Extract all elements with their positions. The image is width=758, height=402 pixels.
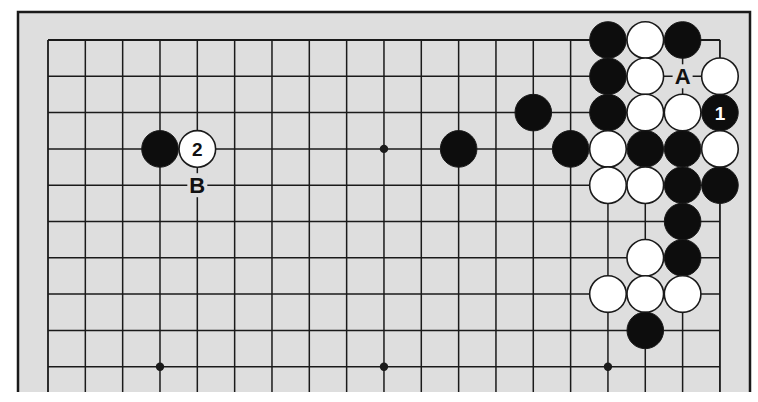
black-stone xyxy=(515,94,552,131)
black-stone xyxy=(627,131,664,168)
black-stone xyxy=(590,58,627,95)
white-stone xyxy=(627,239,664,276)
white-stone xyxy=(627,22,664,59)
black-stone xyxy=(664,22,701,59)
white-stone xyxy=(702,58,739,95)
black-stone xyxy=(664,239,701,276)
go-board: 12 AB xyxy=(0,0,758,402)
point-label-a: A xyxy=(675,64,691,89)
move-number-1: 1 xyxy=(715,103,726,124)
black-stone xyxy=(702,167,739,204)
black-stone xyxy=(142,131,179,168)
black-stone xyxy=(552,131,589,168)
star-point xyxy=(380,145,388,153)
star-point xyxy=(380,363,388,371)
go-diagram: 12 AB xyxy=(0,0,758,402)
white-stone xyxy=(627,276,664,313)
white-stone xyxy=(590,167,627,204)
white-stone xyxy=(664,276,701,313)
point-label-b: B xyxy=(189,173,205,198)
black-stone xyxy=(664,203,701,240)
black-stone xyxy=(664,131,701,168)
star-point xyxy=(604,363,612,371)
star-point xyxy=(156,363,164,371)
page-bottom xyxy=(0,392,758,402)
black-stone xyxy=(590,94,627,131)
black-stone xyxy=(590,22,627,59)
black-stone xyxy=(440,131,477,168)
white-stone xyxy=(590,276,627,313)
white-stone xyxy=(590,131,627,168)
black-stone xyxy=(664,167,701,204)
move-number-2: 2 xyxy=(192,139,203,160)
white-stone xyxy=(664,94,701,131)
white-stone xyxy=(627,167,664,204)
white-stone xyxy=(627,58,664,95)
white-stone xyxy=(702,131,739,168)
black-stone xyxy=(627,312,664,349)
white-stone xyxy=(627,94,664,131)
